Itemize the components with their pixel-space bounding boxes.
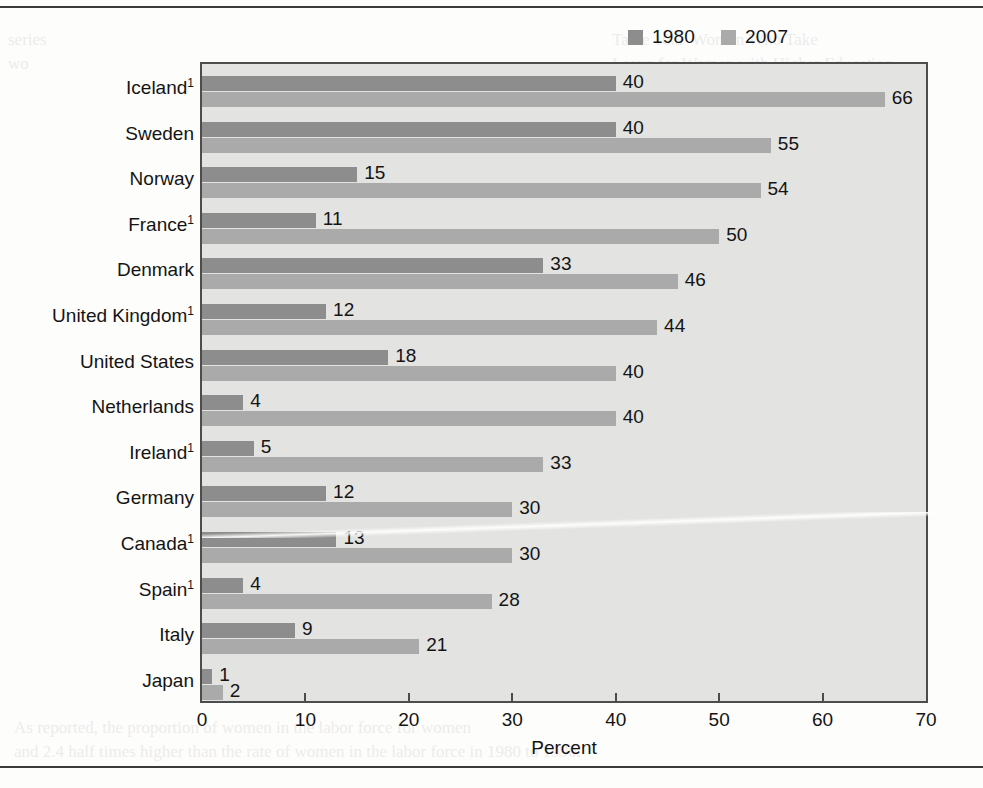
category-label-united-kingdom: United Kingdom1: [2, 305, 194, 327]
category-label-canada: Canada1: [2, 533, 194, 555]
x-axis-title: Percent: [200, 737, 928, 759]
category-label-germany: Germany: [2, 487, 194, 509]
category-label-netherlands: Netherlands: [2, 396, 194, 418]
bar-group: 3346: [202, 250, 926, 296]
bar-2007-canada: [202, 548, 512, 563]
bar-2007-ireland: [202, 457, 543, 472]
bar-value-label: 13: [343, 530, 364, 545]
category-footnote-marker: 1: [187, 440, 194, 454]
bar-group: 1554: [202, 159, 926, 205]
bar-2007-sweden: [202, 138, 771, 153]
bar-value-label: 40: [623, 120, 644, 135]
x-tick-mark: [718, 693, 720, 703]
bar-1980-norway: [202, 167, 357, 182]
bar-value-label: 33: [550, 256, 571, 271]
bar-value-label: 11: [323, 211, 343, 226]
category-footnote-marker: 1: [187, 532, 194, 546]
category-label-ireland: Ireland1: [2, 442, 194, 464]
bar-2007-italy: [202, 639, 419, 654]
bar-value-label: 21: [426, 637, 447, 652]
bar-2007-japan: [202, 685, 223, 700]
category-label-denmark: Denmark: [2, 259, 194, 281]
page-rule-top: [0, 6, 983, 8]
bar-1980-ireland: [202, 441, 254, 456]
x-tick-mark: [615, 693, 617, 703]
page-rule-bottom: [0, 766, 983, 768]
bar-2007-netherlands: [202, 411, 616, 426]
bar-value-label: 12: [333, 302, 354, 317]
legend-label-2007: 2007: [745, 26, 788, 48]
category-label-norway: Norway: [2, 168, 194, 190]
category-label-italy: Italy: [2, 624, 194, 646]
bar-group: 4055: [202, 114, 926, 160]
category-footnote-marker: 1: [187, 304, 194, 318]
bar-group: 440: [202, 387, 926, 433]
bar-value-label: 18: [395, 348, 416, 363]
category-footnote-marker: 1: [187, 76, 194, 90]
bar-group: 1150: [202, 205, 926, 251]
bar-group: 1840: [202, 342, 926, 388]
bar-value-label: 40: [623, 74, 644, 89]
bar-2007-united-states: [202, 366, 616, 381]
bar-group: 428: [202, 570, 926, 616]
legend-item-1980: 1980: [628, 26, 695, 48]
category-axis-labels: Iceland1SwedenNorwayFrance1DenmarkUnited…: [0, 62, 194, 703]
x-tick-label: 70: [915, 709, 936, 731]
category-label-united-states: United States: [2, 351, 194, 373]
x-tick-label: 10: [295, 709, 316, 731]
bar-2007-denmark: [202, 274, 678, 289]
x-tick-mark: [822, 693, 824, 703]
bar-1980-germany: [202, 486, 326, 501]
bar-1980-italy: [202, 623, 295, 638]
bar-2007-germany: [202, 502, 512, 517]
legend-label-1980: 1980: [652, 26, 695, 48]
category-label-spain: Spain1: [2, 579, 194, 601]
x-tick-mark: [304, 693, 306, 703]
bar-value-label: 40: [623, 409, 644, 424]
category-label-sweden: Sweden: [2, 123, 194, 145]
bar-value-label: 44: [664, 318, 685, 333]
bar-value-label: 50: [726, 227, 747, 242]
bar-2007-norway: [202, 183, 761, 198]
chart-legend: 19802007: [628, 26, 788, 48]
x-tick-label: 0: [197, 709, 208, 731]
bar-1980-united-states: [202, 350, 388, 365]
bar-1980-spain: [202, 578, 243, 593]
plot-area: 4066405515541150334612441840440533123013…: [200, 62, 928, 703]
bar-value-label: 2: [230, 683, 241, 698]
bar-2007-iceland: [202, 92, 885, 107]
bar-1980-denmark: [202, 258, 543, 273]
bar-value-label: 15: [364, 165, 385, 180]
x-tick-label: 50: [709, 709, 730, 731]
category-label-iceland: Iceland1: [2, 77, 194, 99]
bar-value-label: 5: [261, 439, 272, 454]
bar-group: 1230: [202, 478, 926, 524]
x-tick-label: 40: [605, 709, 626, 731]
x-tick-label: 30: [502, 709, 523, 731]
bar-group: 533: [202, 433, 926, 479]
bar-1980-netherlands: [202, 395, 243, 410]
bar-value-label: 4: [250, 576, 261, 591]
bar-value-label: 9: [302, 621, 313, 636]
bar-1980-united-kingdom: [202, 304, 326, 319]
bar-value-label: 33: [550, 455, 571, 470]
category-footnote-marker: 1: [187, 577, 194, 591]
bar-1980-canada: [202, 532, 336, 547]
bar-value-label: 1: [219, 667, 230, 682]
bar-1980-sweden: [202, 122, 616, 137]
bar-value-label: 55: [778, 136, 799, 151]
x-tick-label: 60: [812, 709, 833, 731]
bar-group: 12: [202, 661, 926, 707]
bar-value-label: 66: [892, 90, 913, 105]
category-footnote-marker: 1: [187, 212, 194, 226]
bar-2007-united-kingdom: [202, 320, 657, 335]
bar-value-label: 30: [519, 500, 540, 515]
bar-value-label: 4: [250, 393, 261, 408]
plot-inner: 4066405515541150334612441840440533123013…: [202, 64, 926, 701]
x-tick-mark: [511, 693, 513, 703]
legend-swatch-1980: [628, 30, 643, 45]
bar-value-label: 46: [685, 272, 706, 287]
bar-2007-spain: [202, 594, 492, 609]
bar-value-label: 28: [499, 592, 520, 607]
bar-group: 1244: [202, 296, 926, 342]
